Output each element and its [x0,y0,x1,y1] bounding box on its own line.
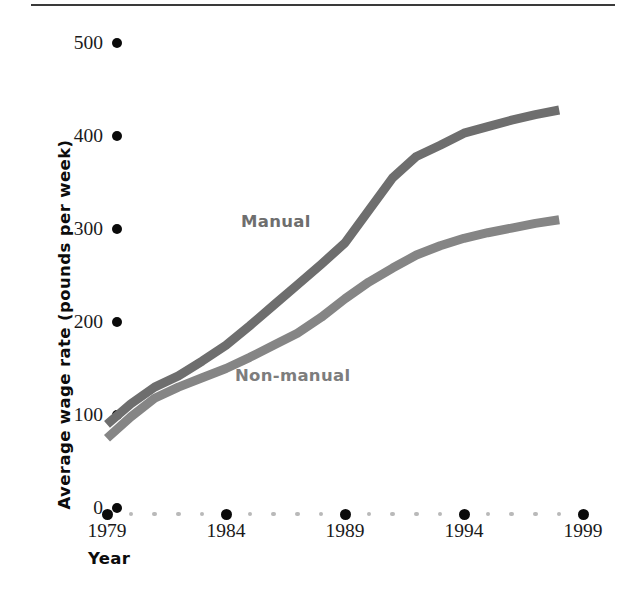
x-axis-major-tick-dot-1999 [578,509,589,520]
x-axis-minor-tick-dot-1980 [129,512,134,517]
x-axis-tick-label-1984: 1984 [191,520,261,542]
x-axis-minor-tick-dot-1981 [152,512,157,517]
x-axis-minor-tick-dot-1982 [176,512,181,517]
x-axis-major-tick-dot-1994 [459,509,470,520]
series-label-non-manual: Non-manual [235,366,350,385]
x-axis-minor-tick-dot-1997 [533,512,538,517]
x-axis-minor-tick-dot-1998 [557,512,562,517]
x-axis-tick-label-1989: 1989 [310,520,380,542]
x-axis-title: Year [88,549,130,568]
x-axis-minor-tick-dot-1986 [271,512,276,517]
x-axis-major-tick-dot-1984 [221,509,232,520]
x-axis-minor-tick-dot-1985 [248,512,253,517]
x-axis-major-tick-dot-1989 [340,509,351,520]
x-axis-tick-label-1979: 1979 [72,520,142,542]
x-axis-minor-tick-dot-1991 [390,512,395,517]
x-axis-minor-tick-dot-1983 [200,512,205,517]
x-axis-tick-label-1994: 1994 [429,520,499,542]
series-label-manual: Manual [241,212,311,231]
x-axis-tick-dots [0,508,642,520]
x-axis-minor-tick-dot-1993 [438,512,443,517]
x-axis-minor-tick-dot-1995 [486,512,491,517]
chart-figure: Average wage rate (pounds per week) 5004… [0,0,642,599]
x-axis-minor-tick-dot-1990 [367,512,372,517]
x-axis-minor-tick-dot-1992 [414,512,419,517]
x-axis-minor-tick-dot-1987 [295,512,300,517]
x-axis-minor-tick-dot-1996 [509,512,514,517]
x-axis-tick-label-1999: 1999 [548,520,618,542]
x-axis-minor-tick-dot-1988 [319,512,324,517]
x-axis-major-tick-dot-1979 [102,509,113,520]
